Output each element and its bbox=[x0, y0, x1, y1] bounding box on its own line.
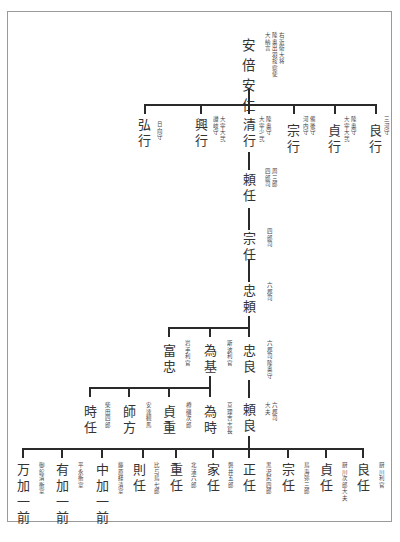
person-note: 厨川次郎大夫 bbox=[341, 462, 348, 501]
diagram-frame bbox=[7, 11, 392, 522]
person-name: 頼良 bbox=[241, 403, 255, 435]
person-name: 富忠 bbox=[161, 344, 175, 376]
connector bbox=[248, 88, 250, 104]
person-note: 比与鳥七郎 bbox=[153, 462, 160, 495]
person-name: 家任 bbox=[205, 463, 219, 495]
person-note: 亘理吉志長 bbox=[226, 402, 233, 435]
person-note: 北浦六郎 bbox=[190, 462, 197, 488]
root-person-note: 右近衛大将陸奥出羽按察使大納言 bbox=[264, 32, 285, 72]
connector bbox=[22, 448, 24, 458]
connector bbox=[248, 327, 250, 337]
connector bbox=[248, 436, 250, 448]
person-note: 斯波利官 bbox=[226, 340, 233, 366]
person-note: 御館清衡室 bbox=[38, 462, 45, 495]
person-note: 安達観馬 bbox=[145, 402, 152, 428]
person-note: 周三郎四郎司 bbox=[264, 168, 278, 188]
connector bbox=[142, 448, 144, 458]
person-name: 良行 bbox=[367, 124, 381, 156]
person-name: 為基 bbox=[202, 344, 216, 376]
connector bbox=[362, 448, 364, 458]
person-note: 大宰大弐讃岐守 bbox=[212, 116, 226, 142]
connector bbox=[89, 387, 91, 397]
connector bbox=[248, 448, 250, 458]
person-note: 厨川利官 bbox=[378, 462, 385, 488]
connector bbox=[168, 327, 170, 337]
person-note: 黒沢尻四郎 bbox=[265, 462, 272, 495]
connector bbox=[325, 448, 327, 458]
person-note: 柴田四郎 bbox=[104, 402, 111, 428]
person-name: 宗行 bbox=[285, 124, 299, 156]
person-note: 陸奥守大宰少弐 bbox=[258, 116, 272, 142]
person-name: 重任 bbox=[168, 463, 182, 495]
person-name: 興行 bbox=[193, 118, 207, 150]
person-note: 備後守河内守 bbox=[302, 116, 316, 136]
connector bbox=[209, 387, 211, 397]
connector bbox=[287, 448, 289, 458]
person-name: 為時 bbox=[202, 405, 216, 437]
person-name: 良任 bbox=[355, 463, 369, 495]
person-name: 万加一前 bbox=[15, 463, 29, 527]
person-name: 貞重 bbox=[161, 405, 175, 437]
connector bbox=[248, 380, 250, 398]
person-note: 六郡司大夫 bbox=[264, 402, 278, 422]
person-name: 則任 bbox=[131, 463, 145, 495]
person-note: 平永衡室 bbox=[77, 462, 84, 488]
connector bbox=[89, 387, 211, 389]
person-name: 貞行 bbox=[326, 124, 340, 156]
person-note: 三河守 bbox=[383, 116, 390, 136]
connector bbox=[375, 104, 377, 114]
connector bbox=[209, 327, 211, 337]
person-note: 樽磯次郎 bbox=[185, 402, 192, 428]
person-note: 四郎司 bbox=[266, 228, 273, 248]
connector bbox=[212, 448, 214, 458]
person-note: 陸奥守大宰大弐 bbox=[343, 116, 357, 142]
connector bbox=[175, 448, 177, 458]
connector bbox=[101, 448, 103, 458]
person-note: 六郡司 bbox=[266, 282, 273, 302]
person-name: 清行 bbox=[241, 118, 255, 150]
connector bbox=[128, 387, 130, 397]
connector bbox=[248, 104, 250, 114]
person-name: 有加一前 bbox=[54, 463, 68, 527]
person-name: 忠頼 bbox=[241, 284, 255, 316]
connector bbox=[168, 387, 170, 397]
person-note: 日向守 bbox=[156, 121, 163, 141]
person-note: 六郡司陸奥守 bbox=[266, 340, 273, 379]
person-name: 師方 bbox=[121, 405, 135, 437]
person-name: 正任 bbox=[241, 463, 255, 495]
connector bbox=[61, 448, 63, 458]
person-name: 中加一前 bbox=[94, 463, 108, 527]
connector bbox=[144, 104, 146, 114]
connector bbox=[248, 152, 250, 170]
connector bbox=[200, 104, 202, 114]
connector bbox=[248, 260, 250, 282]
person-note: 鳥海弥三郎 bbox=[303, 462, 310, 495]
person-note: 藤原経清室 bbox=[117, 462, 124, 495]
person-name: 弘行 bbox=[136, 118, 150, 150]
person-note: 磐井五郎 bbox=[227, 462, 234, 488]
connector bbox=[334, 104, 336, 114]
person-note: 岩手利官 bbox=[184, 340, 191, 366]
connector bbox=[144, 104, 376, 106]
person-name: 頼任 bbox=[241, 173, 255, 205]
person-name: 時任 bbox=[82, 405, 96, 437]
person-name: 忠良 bbox=[241, 344, 255, 376]
person-name: 貞任 bbox=[318, 463, 332, 495]
connector bbox=[22, 448, 363, 450]
person-name: 宗任 bbox=[280, 463, 294, 495]
connector bbox=[248, 208, 250, 230]
connector bbox=[293, 104, 295, 114]
